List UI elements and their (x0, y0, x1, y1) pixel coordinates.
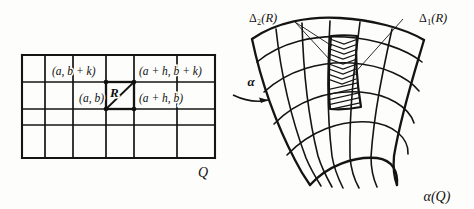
delta-1-argument: (R) (431, 11, 447, 25)
corner-dot-lower-right (132, 107, 137, 112)
subrectangle-R-label: R (109, 85, 119, 100)
surface-u-curve-2 (264, 63, 419, 92)
delta-2-symbol: Δ (249, 11, 257, 25)
delta-2-argument: (R) (261, 11, 277, 25)
corner-dot-upper-left (104, 80, 109, 85)
rectangular-grid-domain: R (a, b + k) (a, b) (a + h, b) (a + h, b… (22, 55, 215, 180)
figure-canvas: R (a, b + k) (a, b) (a + h, b) (a + h, b… (0, 0, 474, 209)
alpha-map-label: α (247, 74, 255, 89)
surface-u-curve-5 (310, 158, 397, 185)
alpha-arrow-head (259, 98, 268, 104)
coord-label-lower-right: (a + h, b) (139, 92, 183, 105)
surface-v-curve-1 (276, 29, 321, 186)
corner-dot-upper-right (132, 80, 137, 85)
image-of-R-hatched (326, 35, 364, 114)
curved-surface-image: Δ2(R) Δ1(R) α(Q) (249, 11, 451, 205)
corner-dot-lower-left (104, 107, 109, 112)
domain-label-Q: Q (198, 165, 208, 180)
delta-1-symbol: Δ (419, 11, 427, 25)
delta-2-label: Δ2(R) (249, 11, 277, 27)
coord-label-upper-left: (a, b + k) (52, 65, 96, 78)
coord-label-lower-left: (a, b) (79, 92, 104, 105)
surface-u-curve-4 (287, 122, 408, 155)
delta-1-label: Δ1(R) (419, 11, 447, 27)
image-label-alpha-Q: α(Q) (424, 189, 451, 205)
figure-svg: R (a, b + k) (a, b) (a + h, b) (a + h, b… (0, 0, 474, 209)
coord-label-upper-right: (a + h, b + k) (139, 65, 202, 78)
